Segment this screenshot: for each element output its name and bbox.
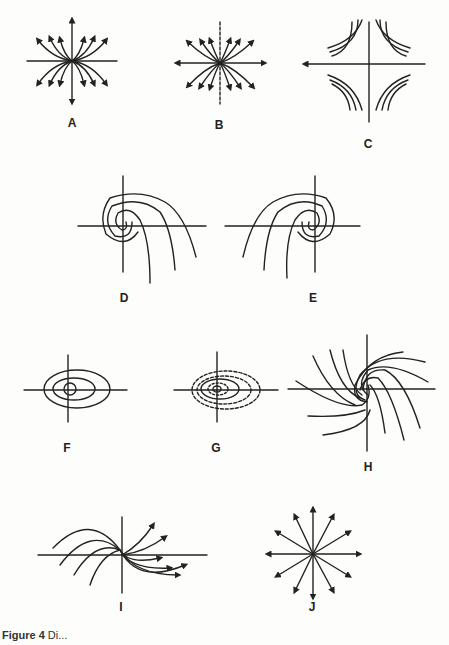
panel-label-h: H xyxy=(364,460,373,474)
panel-label-e: E xyxy=(309,291,317,305)
caption-text: Di... xyxy=(45,629,68,641)
panel-f xyxy=(24,355,127,422)
panel-d xyxy=(78,176,206,283)
panel-e xyxy=(225,176,360,278)
panel-label-i: I xyxy=(119,600,122,614)
panel-b xyxy=(177,22,264,104)
panel-label-f: F xyxy=(63,441,70,455)
panel-j xyxy=(268,509,359,597)
panel-label-c: C xyxy=(364,137,373,151)
panel-label-a: A xyxy=(68,116,77,130)
panel-label-d: D xyxy=(120,291,129,305)
panel-g xyxy=(174,352,278,422)
caption-prefix: Figure 4 xyxy=(2,629,45,641)
panel-h xyxy=(288,335,435,451)
panel-a xyxy=(27,20,117,102)
panel-label-g: G xyxy=(211,441,220,455)
panel-i xyxy=(38,517,207,593)
figure-caption: Figure 4 Di... xyxy=(2,629,67,641)
panel-label-j: J xyxy=(309,600,316,614)
panel-c xyxy=(305,20,425,122)
panel-label-b: B xyxy=(215,118,224,132)
phase-portrait-figure xyxy=(0,0,449,645)
